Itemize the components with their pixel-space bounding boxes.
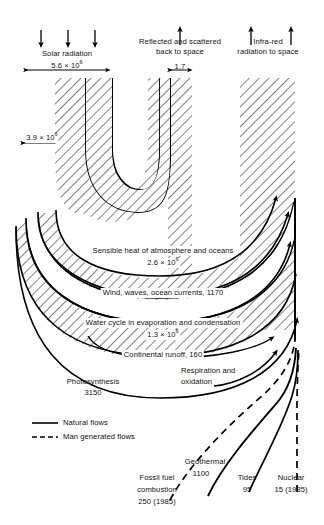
- geothermal-label: Geothermal: [185, 457, 225, 467]
- wind-label: Wind, waves, ocean currents, 1170: [101, 288, 226, 298]
- legend-natural-label: Natural flows: [63, 418, 108, 428]
- direct-reflection-value: 3.9 × 106: [25, 133, 58, 143]
- fossil-fuel-value: 250 (1985): [138, 497, 176, 507]
- solar-label: Solar radiation: [42, 49, 92, 59]
- fossil-fuel-label-line1: Fossil fuel: [139, 473, 174, 483]
- infrared-label-line1: Infra-red: [253, 37, 282, 47]
- nuclear-value: 15 (1985): [274, 485, 307, 495]
- infrared-label-line2: radiation to space: [237, 47, 298, 57]
- energy-flow-diagram: Solar radiation 5.6 × 106 Reflected and …: [0, 0, 324, 525]
- nuclear-label: Nuclear: [278, 473, 305, 483]
- water-cycle-label: Water cycle in evaporation and condensat…: [84, 318, 243, 328]
- water-cycle-value: 1.3 × 106: [145, 330, 180, 340]
- photosynthesis-value: 3150: [84, 388, 101, 398]
- tides-label: Tides: [238, 473, 257, 483]
- tides-value: 95: [243, 485, 252, 495]
- sensible-heat-label: Sensible heat of atmosphere and oceans: [91, 246, 236, 256]
- fossil-fuel-label-line2: combustion: [137, 485, 177, 495]
- photosynthesis-label: Photosynthesis: [67, 377, 120, 387]
- continental-runoff-label: Continental runoff, 160: [122, 350, 204, 360]
- sensible-heat-value: 2.6 × 106: [145, 258, 180, 268]
- reflected-label-line2: back to space: [156, 47, 204, 57]
- respiration-label-line2: oxidation: [181, 377, 212, 387]
- legend-man-label: Man generated flows: [63, 432, 135, 442]
- solar-value: 5.6 × 106: [51, 61, 82, 71]
- solar-input-arrows: [41, 30, 95, 45]
- reflected-label-line1: Reflected and scattered: [139, 37, 221, 47]
- geothermal-value: 1100: [193, 469, 210, 479]
- fossil-fuel-curve: [170, 340, 295, 500]
- respiration-label-line1: Respiration and: [181, 366, 235, 376]
- reflected-value: 1.7: [175, 62, 186, 72]
- nuclear-curve: [297, 348, 299, 492]
